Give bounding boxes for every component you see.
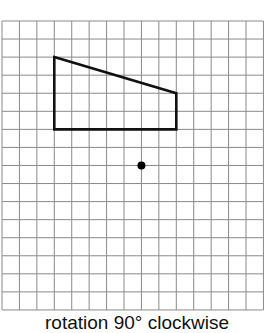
center-of-rotation-dot [137, 161, 145, 169]
caption: rotation 90° clockwise [0, 312, 274, 333]
grid-lines [2, 21, 263, 310]
